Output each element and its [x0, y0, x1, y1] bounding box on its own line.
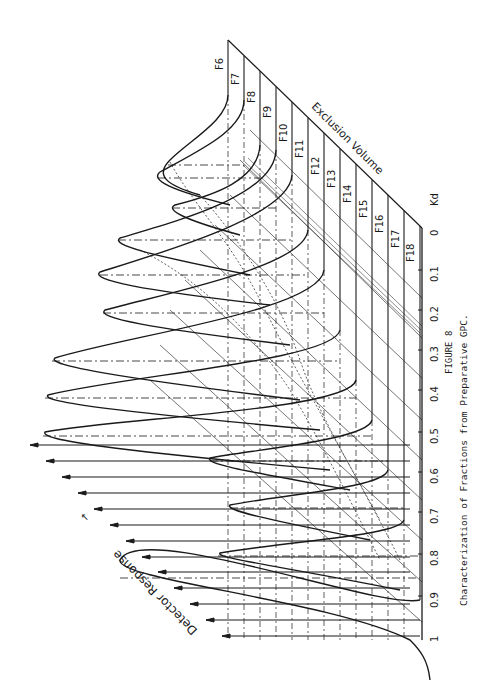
fraction-label: F15 — [358, 200, 369, 218]
fraction-label: F13 — [326, 170, 337, 188]
kd-tick: 0.7 — [429, 508, 440, 524]
gpc-waterfall-chart: F6 F7 F8 F9 F10 F11 F12 F13 F14 F15 F16 … — [0, 0, 485, 687]
kd-axis-label: Kd — [429, 193, 440, 206]
fraction-label: F14 — [342, 185, 353, 203]
curve-F17 — [220, 520, 404, 590]
curve-F7 — [158, 100, 244, 205]
exclusion-volume-axis — [228, 40, 422, 228]
fraction-label: F6 — [214, 58, 225, 70]
detector-response-label: Detector Response — [110, 547, 200, 637]
kd-tick-labels: Kd 0 0.1 0.2 0.3 0.4 0.5 0.6 0.7 0.8 0.9… — [429, 193, 440, 642]
fraction-label: F16 — [374, 215, 385, 233]
curve-F6 — [163, 95, 228, 195]
kd-tick: 0.8 — [429, 550, 440, 566]
kd-tick: 0.1 — [429, 266, 440, 282]
envelope-curves — [140, 162, 400, 560]
curve-F11 — [104, 230, 308, 345]
fraction-label: F10 — [278, 124, 289, 142]
figure-page: F6 F7 F8 F9 F10 F11 F12 F13 F14 F15 F16 … — [0, 0, 485, 687]
fraction-label: F17 — [390, 230, 401, 248]
kd-tick: 0 — [429, 230, 440, 236]
fraction-label: F7 — [230, 73, 241, 85]
kd-tick: 0.3 — [429, 346, 440, 362]
projection-lines — [228, 95, 404, 640]
kd-tick: 0.6 — [429, 468, 440, 484]
kd-tick: 0.5 — [429, 428, 440, 444]
fraction-label: F12 — [310, 157, 321, 175]
fraction-label: F9 — [262, 106, 273, 118]
figure-number: FIGURE 8 — [444, 331, 454, 374]
kd-tick: 1 — [429, 636, 440, 642]
kd-tick: 0.4 — [429, 386, 440, 402]
figure-caption: Characterization of Fractions from Prepa… — [458, 314, 469, 606]
response-arrows — [30, 443, 420, 638]
kd-gridlines — [150, 130, 422, 622]
kd-tick: 0.2 — [429, 306, 440, 322]
fraction-label: F11 — [294, 140, 305, 158]
fraction-label: F8 — [246, 91, 257, 103]
response-arrow-icon: → — [78, 511, 92, 525]
kd-tick: 0.9 — [429, 592, 440, 608]
fraction-label: F18 — [405, 244, 416, 262]
